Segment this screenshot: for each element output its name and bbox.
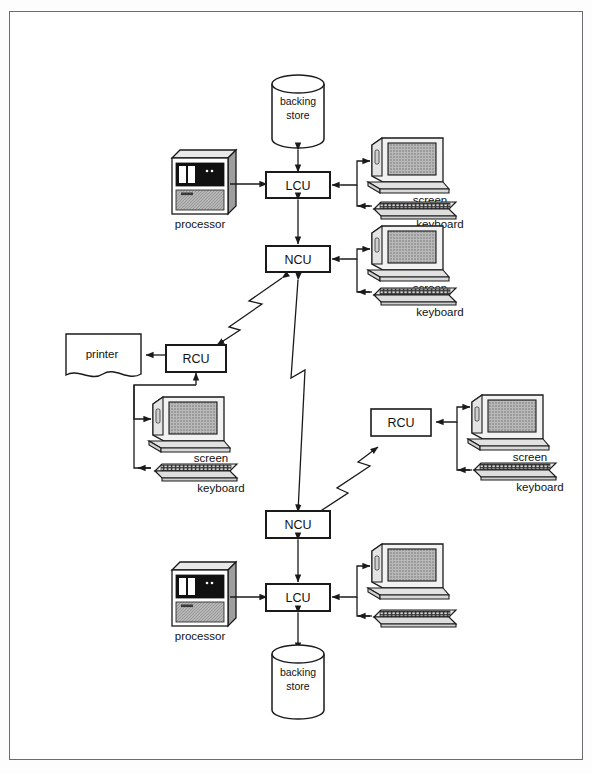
keyboard-top-2-label: keyboard bbox=[416, 306, 463, 318]
keyboard-left-label: keyboard bbox=[197, 482, 244, 494]
keyboard-left bbox=[155, 464, 237, 481]
link-lightning-ncutop-rculeft bbox=[217, 278, 282, 345]
backing-store-bottom-label-line1: backing bbox=[280, 666, 316, 678]
bus-lcutop-terminal1 bbox=[332, 161, 372, 206]
screen-right bbox=[468, 395, 549, 450]
keyboard-right bbox=[474, 463, 556, 480]
link-lightning-ncubottom-rcuright bbox=[316, 447, 378, 514]
processor-top-label: processor bbox=[175, 218, 226, 230]
processor-top bbox=[172, 150, 236, 214]
network-topology-diagram: backing store bbox=[0, 0, 592, 773]
backing-store-bottom-label-line2: store bbox=[286, 680, 310, 692]
diagram-page: backing store bbox=[0, 0, 592, 773]
screen-left bbox=[149, 397, 230, 452]
keyboard-top-1 bbox=[374, 202, 456, 219]
screen-top-1 bbox=[368, 138, 449, 193]
rcu-left-label: RCU bbox=[182, 352, 209, 366]
screen-top-2 bbox=[368, 226, 449, 281]
screen-right-label: screen bbox=[513, 451, 548, 463]
ncu-top-label: NCU bbox=[284, 253, 311, 267]
link-lightning-ncutop-ncubottom bbox=[291, 280, 305, 512]
keyboard-top-2 bbox=[374, 288, 456, 305]
processor-bottom-label: processor bbox=[175, 630, 226, 642]
printer-label: printer bbox=[86, 348, 119, 360]
keyboard-bottom bbox=[374, 610, 456, 627]
keyboard-right-label: keyboard bbox=[516, 481, 563, 493]
ncu-bottom-label: NCU bbox=[284, 518, 311, 532]
lcu-bottom-label: LCU bbox=[285, 591, 310, 605]
backing-store-top-label-line2: store bbox=[286, 109, 310, 121]
backing-store-top-label-line1: backing bbox=[280, 95, 316, 107]
rcu-right-label: RCU bbox=[387, 416, 414, 430]
lcu-top-label: LCU bbox=[285, 179, 310, 193]
processor-bottom bbox=[172, 562, 236, 626]
bus-ncutop-terminal2 bbox=[332, 249, 372, 292]
screen-bottom bbox=[368, 544, 449, 599]
bus-lcubottom-terminal bbox=[332, 566, 372, 616]
screen-left-label: screen bbox=[194, 452, 229, 464]
